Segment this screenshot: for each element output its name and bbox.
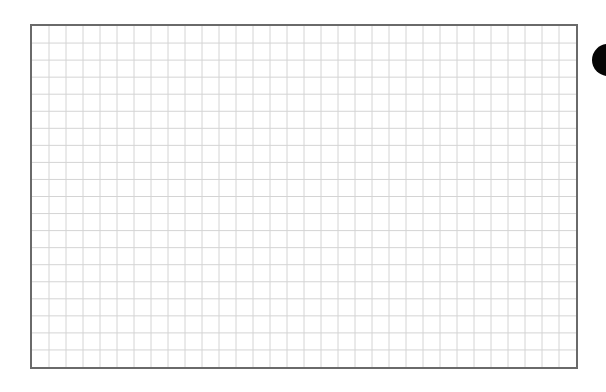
graph-paper-grid: [30, 24, 578, 369]
grid-lines: [32, 26, 576, 367]
black-dot-marker: [592, 44, 606, 76]
page-canvas: [0, 0, 606, 392]
